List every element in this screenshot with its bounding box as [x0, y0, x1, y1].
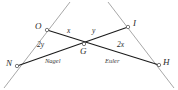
geometry-figure: N H O I G 2y 2x x y Nagel Euler	[0, 0, 178, 90]
vertex-marker-H	[157, 63, 160, 66]
ray-group	[4, 2, 174, 88]
figure-canvas	[0, 0, 178, 90]
vertex-marker-G	[82, 42, 85, 45]
segment-group	[17, 27, 159, 66]
ray-through-I-and-H	[108, 2, 174, 88]
vertex-marker-group	[15, 25, 160, 67]
segment-N-to-I	[17, 27, 128, 66]
ray-through-N-and-O	[4, 2, 70, 88]
vertex-marker-I	[126, 25, 129, 28]
vertex-marker-N	[15, 64, 18, 67]
vertex-marker-O	[45, 28, 48, 31]
